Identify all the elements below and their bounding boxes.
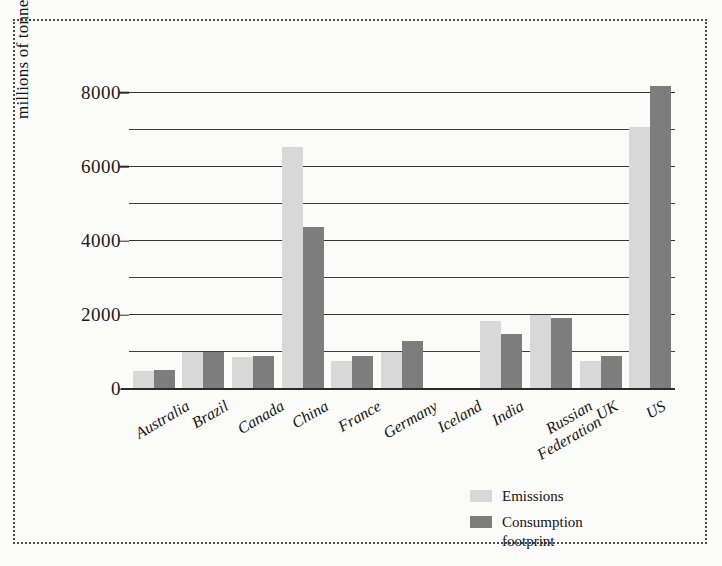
legend-item[interactable]: Consumptionfootprint xyxy=(470,513,583,551)
x-tick-label-line: India xyxy=(489,397,527,430)
bar xyxy=(601,356,622,389)
legend-label-line: Consumption xyxy=(502,513,583,532)
y-tick-mark-8000 xyxy=(119,92,129,93)
bar-group xyxy=(625,78,675,389)
chart-legend: EmissionsConsumptionfootprint xyxy=(470,487,583,557)
bar xyxy=(501,334,522,389)
bar xyxy=(402,341,423,389)
x-tick-label-line: Brazil xyxy=(189,397,232,432)
x-tick-cell: RussianFederation xyxy=(526,391,576,501)
legend-label-line: Emissions xyxy=(502,487,564,506)
bar xyxy=(352,356,373,389)
x-tick-cell: India xyxy=(476,391,526,501)
x-tick-cell: Germany xyxy=(377,391,427,501)
chart-frame-border: millions of tonnes CO2e 8000600040002000… xyxy=(13,19,707,544)
legend-item[interactable]: Emissions xyxy=(470,487,583,506)
bar xyxy=(551,318,572,389)
legend-label: Consumptionfootprint xyxy=(502,513,583,551)
bar xyxy=(133,371,154,390)
y-tick-label-6000: 6000 xyxy=(81,156,121,178)
y-tick-mark-6000 xyxy=(119,166,129,167)
bar xyxy=(282,147,303,390)
x-tick-label: Brazil xyxy=(189,397,232,432)
x-tick-cell: France xyxy=(328,391,378,501)
bar xyxy=(530,315,551,389)
y-axis-tick-labels: 80006000400020000 xyxy=(63,78,121,389)
plot-area xyxy=(129,78,675,389)
y-tick-label-8000: 8000 xyxy=(81,82,121,104)
legend-label-line: footprint xyxy=(502,532,583,551)
bar xyxy=(303,227,324,389)
x-tick-cell: Australia xyxy=(129,391,179,501)
bar-group xyxy=(129,78,179,389)
bar xyxy=(253,356,274,389)
bar xyxy=(154,370,175,389)
x-axis-line xyxy=(121,388,675,390)
x-tick-label: UK xyxy=(592,397,620,424)
bar-group xyxy=(476,78,526,389)
x-tick-cell: China xyxy=(278,391,328,501)
x-tick-cell: Iceland xyxy=(427,391,477,501)
y-axis-title: millions of tonnes CO2e xyxy=(13,0,33,119)
x-tick-cell: US xyxy=(625,391,675,501)
x-tick-label: India xyxy=(489,397,527,430)
y-tick-label-2000: 2000 xyxy=(81,304,121,326)
x-tick-label-line: US xyxy=(643,397,669,423)
bar-group xyxy=(576,78,626,389)
bar xyxy=(203,352,224,389)
bar xyxy=(580,361,601,389)
x-tick-cell: UK xyxy=(576,391,626,501)
bar-group xyxy=(179,78,229,389)
legend-swatch-icon xyxy=(470,516,492,528)
y-tick-mark-4000 xyxy=(119,240,129,241)
bar xyxy=(650,86,671,389)
y-tick-mark-2000 xyxy=(119,314,129,315)
legend-swatch-icon xyxy=(470,490,492,502)
bar xyxy=(182,352,203,389)
x-tick-cell: Canada xyxy=(228,391,278,501)
bar-group xyxy=(427,78,477,389)
bar xyxy=(232,357,253,389)
x-tick-label: China xyxy=(288,397,331,432)
chart-page: millions of tonnes CO2e 8000600040002000… xyxy=(0,0,722,566)
x-axis-tick-labels: AustraliaBrazilCanadaChinaFranceGermanyI… xyxy=(129,391,675,501)
bar-group xyxy=(377,78,427,389)
y-tick-label-4000: 4000 xyxy=(81,230,121,252)
bar-group xyxy=(228,78,278,389)
bar-group xyxy=(328,78,378,389)
bar xyxy=(629,127,650,389)
bar xyxy=(381,352,402,389)
x-tick-label-line: China xyxy=(288,397,331,432)
y-axis-title-text: millions of tonnes CO xyxy=(13,0,32,119)
x-tick-label: US xyxy=(643,397,669,423)
x-tick-cell: Brazil xyxy=(179,391,229,501)
bar-group xyxy=(278,78,328,389)
bar xyxy=(331,361,352,389)
legend-label: Emissions xyxy=(502,487,564,506)
bar-groups xyxy=(129,78,675,389)
x-tick-label-line: UK xyxy=(592,397,620,424)
bar xyxy=(480,321,501,389)
bar-group xyxy=(526,78,576,389)
